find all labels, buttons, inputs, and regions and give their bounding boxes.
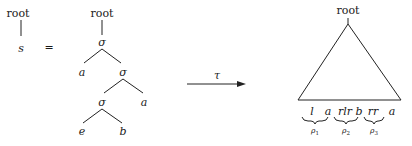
node-e: e [79, 125, 86, 138]
node-sigma-2: σ [119, 66, 127, 79]
rho1-label: ρ1 [310, 126, 319, 136]
frontier-a-2: a [389, 105, 396, 118]
node-sigma-3: σ [98, 96, 106, 109]
frontier-b: b [355, 105, 362, 118]
result-triangle [298, 24, 401, 100]
result-tree: root l a rlr b rr a ρ1 ρ2 ρ3 [298, 4, 401, 136]
edge-n1-n2 [84, 49, 102, 63]
left-child-s: s [18, 42, 24, 55]
node-a-1: a [79, 66, 86, 79]
edge-n1-n3 [102, 49, 121, 63]
tau-label: τ [214, 69, 221, 82]
left-root-label: root [7, 7, 31, 20]
tree-transformation-diagram: root s = root σ a σ σ a e b τ root l a [0, 0, 412, 146]
tau-arrow: τ [187, 69, 246, 87]
underbrace-rho1 [302, 117, 328, 124]
frontier-a-1: a [325, 105, 332, 118]
node-a-2: a [141, 96, 148, 109]
edge-n4-n7 [102, 109, 122, 123]
edge-n3-n4 [104, 79, 123, 93]
underbrace-rho2 [334, 117, 358, 124]
underbrace-rho3 [364, 117, 384, 124]
rho3-label: ρ3 [369, 126, 378, 136]
expanded-root-label: root [91, 7, 115, 20]
edge-n4-n6 [83, 109, 102, 123]
node-b: b [119, 125, 126, 138]
frontier-rlr: rlr [338, 105, 353, 118]
arrow-head-icon [237, 81, 246, 87]
equals-sign: = [44, 41, 53, 54]
expanded-tree: root σ a σ σ a e b [79, 7, 148, 138]
rho2-label: ρ2 [341, 126, 350, 136]
edge-n3-n5 [123, 79, 143, 93]
frontier-rr: rr [368, 105, 379, 118]
node-sigma-1: σ [98, 36, 106, 49]
left-tree: root s [7, 7, 31, 55]
frontier-l: l [310, 105, 314, 118]
result-root-label: root [337, 4, 361, 17]
